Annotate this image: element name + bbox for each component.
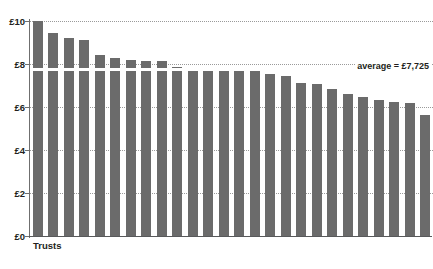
- bar: [172, 67, 182, 236]
- bar: [358, 97, 368, 236]
- bar: [281, 76, 291, 236]
- y-axis-tick-label: £0: [14, 231, 25, 242]
- bar: [343, 94, 353, 236]
- y-axis-tick-mark: [25, 193, 29, 194]
- x-axis-title: Trusts: [33, 240, 62, 251]
- bar: [234, 71, 244, 236]
- bar: [126, 60, 136, 236]
- bar: [312, 84, 322, 236]
- y-axis-tick-label: £6: [14, 102, 25, 113]
- gridline: [30, 193, 433, 194]
- bar: [327, 89, 337, 236]
- bar: [219, 71, 229, 236]
- bar: [110, 58, 120, 236]
- bar: [188, 70, 198, 236]
- bar-chart: £0£2£4£6£8£10 average = £7,725 Trusts: [0, 0, 433, 269]
- bar: [48, 33, 58, 236]
- y-axis-tick-label: £8: [14, 59, 25, 70]
- bar: [389, 102, 399, 236]
- y-axis-tick-mark: [25, 107, 29, 108]
- bar: [33, 21, 43, 236]
- bar: [296, 83, 306, 236]
- bar: [420, 115, 430, 236]
- y-axis-tick-label: £2: [14, 188, 25, 199]
- bar: [250, 71, 260, 236]
- bar: [405, 103, 415, 236]
- y-axis-tick-label: £4: [14, 145, 25, 156]
- bar: [95, 55, 105, 236]
- y-axis-tick-label: £10: [9, 16, 25, 27]
- gridline: [30, 150, 433, 151]
- bar: [374, 100, 384, 236]
- average-line-label: average = £7,725: [355, 60, 431, 72]
- plot-area: average = £7,725: [30, 21, 433, 236]
- bar: [265, 74, 275, 236]
- chart-title: [0, 0, 433, 2]
- bar: [141, 61, 151, 236]
- y-axis-tick-mark: [25, 64, 29, 65]
- y-axis-tick-mark: [25, 21, 29, 22]
- bar: [203, 71, 213, 236]
- gridline: [30, 21, 433, 22]
- bar: [157, 61, 167, 236]
- y-axis-tick-mark: [25, 150, 29, 151]
- y-axis-tick-mark: [25, 236, 29, 237]
- y-axis-labels: £0£2£4£6£8£10: [0, 21, 28, 236]
- gridline: [30, 107, 433, 108]
